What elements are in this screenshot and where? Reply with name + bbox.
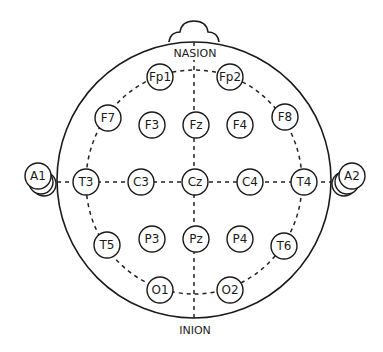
electrode-O1: O1 bbox=[147, 277, 173, 303]
electrode-C3: C3 bbox=[128, 169, 154, 195]
electrode-T3: T3 bbox=[73, 169, 99, 195]
svg-text:T6: T6 bbox=[276, 239, 292, 253]
nasion-label: NASION bbox=[174, 47, 217, 60]
svg-text:F7: F7 bbox=[101, 111, 116, 125]
svg-text:F8: F8 bbox=[278, 110, 293, 124]
svg-text:O1: O1 bbox=[151, 283, 168, 297]
electrode-A2: A2 bbox=[339, 163, 365, 189]
electrode-Fz: Fz bbox=[183, 112, 209, 138]
svg-text:P3: P3 bbox=[145, 232, 160, 246]
inion-label: INION bbox=[179, 324, 211, 337]
svg-text:C3: C3 bbox=[133, 175, 149, 189]
svg-text:P4: P4 bbox=[233, 232, 248, 246]
electrode-Fp1: Fp1 bbox=[147, 64, 173, 90]
electrode-C4: C4 bbox=[237, 169, 263, 195]
svg-text:F4: F4 bbox=[233, 118, 248, 132]
svg-text:Fp1: Fp1 bbox=[149, 70, 171, 84]
svg-text:O2: O2 bbox=[221, 283, 238, 297]
svg-text:T3: T3 bbox=[78, 175, 94, 189]
svg-text:Fp2: Fp2 bbox=[219, 70, 241, 84]
svg-text:Pz: Pz bbox=[189, 232, 203, 246]
svg-text:A1: A1 bbox=[30, 169, 46, 183]
electrode-O2: O2 bbox=[217, 277, 243, 303]
nose-icon bbox=[169, 21, 219, 42]
electrode-F3: F3 bbox=[139, 112, 165, 138]
electrode-Cz: Cz bbox=[182, 169, 208, 195]
eeg-diagram: Fp1 Fp2 F7 F3 Fz F4 F8 A1 T3 C3 Cz C4 T4… bbox=[0, 0, 383, 352]
electrode-Pz: Pz bbox=[183, 226, 209, 252]
electrode-P4: P4 bbox=[227, 226, 253, 252]
electrode-Fp2: Fp2 bbox=[217, 64, 243, 90]
electrode-P3: P3 bbox=[139, 226, 165, 252]
svg-text:Fz: Fz bbox=[189, 118, 202, 132]
svg-text:C4: C4 bbox=[242, 175, 258, 189]
svg-text:F3: F3 bbox=[145, 118, 160, 132]
svg-text:Cz: Cz bbox=[188, 175, 203, 189]
electrode-F4: F4 bbox=[227, 112, 253, 138]
svg-text:A2: A2 bbox=[344, 169, 360, 183]
electrode-A1: A1 bbox=[25, 163, 51, 189]
electrode-F7: F7 bbox=[95, 105, 121, 131]
electrode-T6: T6 bbox=[271, 233, 297, 259]
electrode-T4: T4 bbox=[291, 169, 317, 195]
svg-text:T4: T4 bbox=[296, 175, 312, 189]
svg-text:T5: T5 bbox=[99, 238, 115, 252]
electrode-T5: T5 bbox=[94, 232, 120, 258]
electrode-F8: F8 bbox=[272, 104, 298, 130]
